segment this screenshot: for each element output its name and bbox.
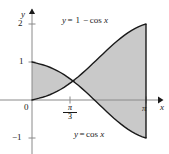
upper-curve-label: y=1−cos x — [62, 16, 108, 25]
y-tick-label-2: 2 — [18, 19, 23, 28]
arrow-up-icon — [29, 9, 35, 15]
pi-over-3-numerator: π — [63, 104, 77, 112]
lower-label-arg: x — [100, 129, 104, 139]
y-tick-label-1: 1 — [19, 57, 24, 66]
upper-label-value: 1 — [76, 15, 81, 25]
lower-label-lhs: y — [74, 129, 78, 139]
lower-label-equals: = — [80, 129, 85, 139]
area-polygon — [32, 24, 146, 138]
figure-container: y x 2 1 −1 0 π 3 π y=1−cos x y=cos x — [0, 0, 169, 154]
shaded-area-accurate — [32, 24, 146, 138]
lower-label-fn: cos — [86, 129, 98, 139]
origin-label: 0 — [24, 103, 29, 112]
upper-label-arg: x — [104, 15, 108, 25]
upper-label-minus: − — [83, 15, 88, 25]
x-tick-label-pi: π — [142, 104, 147, 113]
x-axis-label: x — [160, 103, 164, 112]
x-tick-label-pi-over-3: π 3 — [63, 104, 77, 122]
lower-curve-label: y=cos x — [74, 130, 104, 139]
upper-label-fn: cos — [90, 15, 102, 25]
upper-label-equals: = — [68, 15, 73, 25]
pi-over-3-denominator: 3 — [63, 113, 77, 121]
y-tick-label-minus-1: −1 — [12, 133, 22, 142]
upper-label-lhs: y — [62, 15, 66, 25]
